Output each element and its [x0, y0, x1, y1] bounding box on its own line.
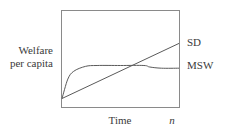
chart: Welfare per capita Time n SD MSW — [0, 0, 225, 132]
series-label-msw: MSW — [187, 59, 214, 71]
y-axis-label-line1: Welfare — [18, 44, 53, 56]
plot-frame — [62, 11, 180, 108]
msw-series-line — [62, 65, 179, 98]
y-axis-label-line2: per capita — [10, 57, 53, 69]
series-label-sd: SD — [187, 36, 201, 48]
x-axis-end-label: n — [169, 114, 175, 126]
x-axis-label: Time — [109, 114, 132, 126]
sd-series-line — [62, 43, 179, 98]
